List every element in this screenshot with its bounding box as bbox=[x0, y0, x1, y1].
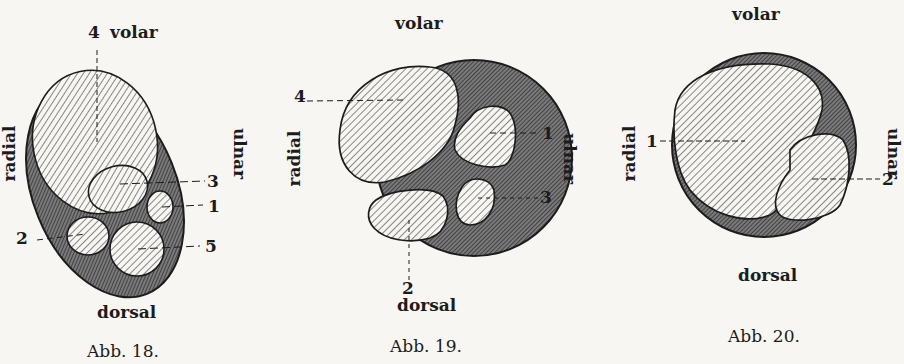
label-1: 1 bbox=[542, 125, 554, 142]
label-3: 3 bbox=[540, 189, 552, 206]
orientation-dorsal: dorsal bbox=[738, 267, 797, 284]
label-3: 3 bbox=[207, 173, 219, 190]
label-5: 5 bbox=[205, 238, 217, 255]
figure-caption: Abb. 18. bbox=[87, 343, 159, 360]
orientation-ulnar: ulnar bbox=[231, 128, 248, 179]
label-2: 2 bbox=[882, 171, 894, 188]
label-2: 2 bbox=[16, 230, 28, 247]
orientation-volar: volar bbox=[395, 15, 443, 32]
label-1: 1 bbox=[208, 198, 220, 215]
figure-20-diagram bbox=[660, 53, 880, 237]
orientation-volar: volar bbox=[732, 6, 780, 23]
label-4: 4 bbox=[294, 88, 306, 105]
figure-19-diagram bbox=[307, 60, 572, 280]
orientation-volar: volar bbox=[110, 24, 158, 41]
label-4: 4 bbox=[88, 24, 100, 41]
orientation-radial: radial bbox=[1, 126, 18, 182]
figure-18-diagram bbox=[0, 50, 214, 321]
figure-caption: Abb. 19. bbox=[390, 338, 462, 355]
orientation-dorsal: dorsal bbox=[397, 297, 456, 314]
orientation-radial: radial bbox=[286, 131, 303, 187]
orientation-ulnar: ulnar bbox=[561, 133, 578, 184]
orientation-radial: radial bbox=[621, 126, 638, 182]
orientation-dorsal: dorsal bbox=[97, 304, 156, 321]
label-1: 1 bbox=[646, 133, 658, 150]
figure-caption: Abb. 20. bbox=[728, 328, 800, 345]
